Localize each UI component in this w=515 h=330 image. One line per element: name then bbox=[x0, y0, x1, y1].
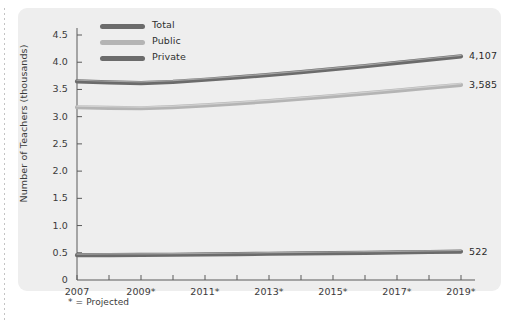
chart-figure: Number of Teachers (thousands) 00.51.01.… bbox=[0, 0, 515, 330]
chart-footnote: * = Projected bbox=[68, 297, 129, 307]
chart-plot-area bbox=[0, 0, 515, 330]
